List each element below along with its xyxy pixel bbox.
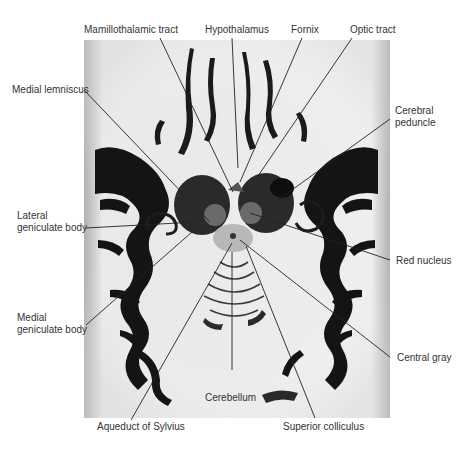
- leader-medial-geniculate-body: [86, 232, 192, 325]
- leader-cerebral-peduncle: [278, 119, 390, 200]
- label-cerebellum: Cerebellum: [205, 392, 256, 404]
- label-medial-lemniscus: Medial lemniscus: [12, 84, 89, 96]
- brain-section-figure: Mamillothalamic tract Hypothalamus Forni…: [0, 0, 473, 454]
- label-mamillothalamic-tract: Mamillothalamic tract: [84, 24, 178, 36]
- label-red-nucleus: Red nucleus: [396, 255, 452, 267]
- label-lateral-geniculate-body: Lateral geniculate body: [17, 210, 87, 234]
- label-cerebral-peduncle: Cerebral peduncle: [395, 105, 436, 129]
- label-superior-colliculus: Superior colliculus: [283, 421, 364, 433]
- label-fornix: Fornix: [291, 24, 319, 36]
- label-central-gray: Central gray: [397, 352, 451, 364]
- label-medial-geniculate-body: Medial geniculate body: [17, 312, 87, 336]
- leader-fornix: [240, 38, 302, 182]
- label-aqueduct-of-sylvius: Aqueduct of Sylvius: [97, 421, 185, 433]
- leader-central-gray: [240, 240, 390, 357]
- leader-lateral-geniculate-body: [86, 222, 196, 228]
- leader-red-nucleus: [250, 213, 390, 260]
- label-optic-tract: Optic tract: [350, 24, 396, 36]
- leader-mamillothalamic-tract: [160, 38, 233, 192]
- leader-medial-lemniscus: [84, 90, 210, 222]
- label-hypothalamus: Hypothalamus: [205, 24, 269, 36]
- leader-hypothalamus: [232, 38, 238, 168]
